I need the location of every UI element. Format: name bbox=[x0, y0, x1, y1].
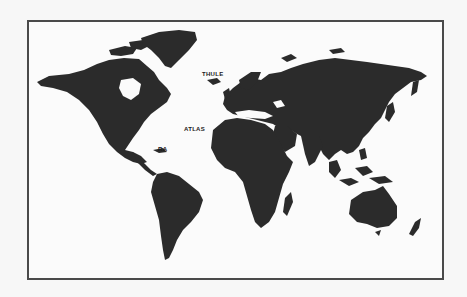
australia bbox=[349, 186, 397, 228]
label-ra: RA bbox=[158, 146, 167, 152]
greenland bbox=[141, 30, 197, 68]
map-frame: THULE ATLAS RA bbox=[27, 20, 444, 280]
south-america bbox=[151, 172, 203, 260]
world-map bbox=[29, 22, 442, 278]
label-atlas: ATLAS bbox=[184, 126, 205, 132]
north-america bbox=[37, 58, 171, 164]
label-thule: THULE bbox=[202, 71, 224, 77]
